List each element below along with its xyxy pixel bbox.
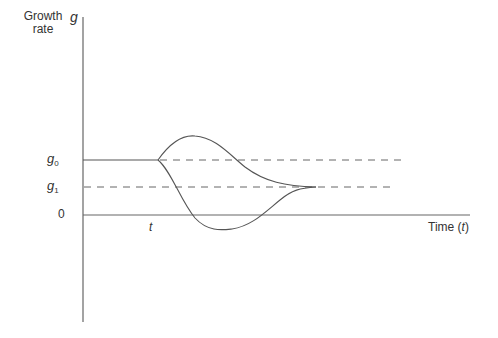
zero-label: 0 [58,208,65,221]
y-axis-label: Growth rate [20,10,66,36]
diagram-canvas [0,0,498,338]
undershoot-curve [158,160,316,230]
time-marker: t [149,221,152,234]
g0-sub: 0 [54,159,58,168]
x-axis-label-suffix: ) [465,220,469,234]
g0-label: g0 [47,152,59,170]
g1-label: g1 [47,179,59,197]
x-axis-label: Time (t) [428,221,469,234]
g1-sub: 1 [54,186,58,195]
overshoot-curve [158,136,316,187]
y-axis-label-line2: rate [20,23,66,36]
x-axis-label-prefix: Time ( [428,220,462,234]
y-axis-symbol: g [70,11,78,24]
